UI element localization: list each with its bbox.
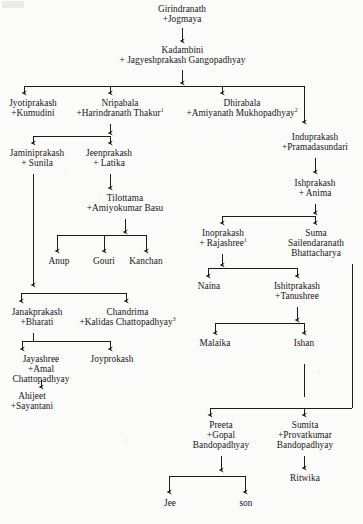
person-node-tilottama: Tilottama+Amiyokumar Basu [78, 193, 172, 213]
person-node-line: + Rajashree1 [190, 238, 256, 248]
person-node-line: +Tanushree [263, 291, 331, 301]
person-node-line: Bandopadhyay [185, 440, 257, 450]
person-node-line: Preeta [185, 420, 257, 430]
person-node-malaika: Malaika [196, 338, 234, 348]
person-node-line: Sumita [266, 420, 344, 430]
person-node-gouri: Gouri [89, 256, 119, 266]
person-node-line: Girindranath [137, 4, 227, 14]
person-node-line: Induprakash [272, 132, 358, 142]
footnote-marker: 2 [295, 107, 298, 113]
person-node-line: Jyotiprakash [1, 98, 65, 108]
person-node-line: +Kumudini [1, 108, 65, 118]
person-node-line: Jayashree [2, 354, 80, 364]
person-node-line: Janakprakash [1, 307, 73, 317]
person-node-line: +Bharati [1, 317, 73, 327]
person-node-line: +Kalidas Chattopadhyay3 [70, 317, 185, 327]
person-node-suma: SumaSailendaranathBhattacharya [280, 228, 352, 258]
person-node-jee: Jee [159, 498, 181, 508]
person-node-line: Suma [280, 228, 352, 238]
person-node-line: Nripabala [65, 98, 175, 108]
person-node-line: Ishitprakash [263, 281, 331, 291]
person-node-sumita: Sumita+ProvatkumarBandopadhyay [266, 420, 344, 450]
person-node-kadambini: Kadambini+ Jagyeshprakash Gangopadhyay [100, 45, 265, 65]
person-node-line: Tilottama [78, 193, 172, 203]
person-node-chandrima: Chandrima+Kalidas Chattopadhyay3 [70, 307, 185, 327]
person-node-line: Malaika [196, 338, 234, 348]
person-node-ishitprakash: Ishitprakash+Tanushree [263, 281, 331, 301]
person-node-line: +Amiyokumar Basu [78, 203, 172, 213]
footnote-marker: 3 [173, 316, 176, 322]
person-node-line: + Latika [76, 158, 142, 168]
person-node-line: Kanchan [125, 256, 167, 266]
person-node-line: Chattopadhyay [2, 374, 80, 384]
family-tree-diagram: Girindranath+JogmayaKadambini+ Jagyeshpr… [0, 0, 363, 524]
person-node-ahijeet: Ahijeet+Sayantani [4, 391, 60, 411]
person-node-line: +Amal [2, 364, 80, 374]
person-node-naina: Naina [192, 281, 226, 291]
person-node-line: + Jagyeshprakash Gangopadhyay [100, 55, 265, 65]
person-node-janakprakash: Janakprakash+Bharati [1, 307, 73, 327]
person-node-line: Jeenprakash [76, 148, 142, 158]
person-node-line: +Sayantani [4, 401, 60, 411]
person-node-line: +Harindranath Thakur1 [65, 108, 175, 118]
footnote-marker: 1 [161, 107, 164, 113]
person-node-line: +Pramadasundari [272, 142, 358, 152]
person-node-line: + Anima [276, 188, 354, 198]
footnote-marker: 1 [244, 237, 247, 243]
person-node-line: Dhirabala [176, 98, 308, 108]
person-node-line: Jaminiprakash [0, 148, 74, 158]
person-node-induprakash: Induprakash+Pramadasundari [272, 132, 358, 152]
person-node-jayashree: Jayashree+AmalChattopadhyay [2, 354, 80, 384]
person-node-line: Ritwika [285, 473, 325, 483]
person-node-nripabala: Nripabala+Harindranath Thakur1 [65, 98, 175, 118]
person-node-line: Bhattacharya [280, 248, 352, 258]
person-node-line: Kadambini [100, 45, 265, 55]
person-node-line: +Jogmaya [137, 14, 227, 24]
person-node-line: Jee [159, 498, 181, 508]
person-node-line: Naina [192, 281, 226, 291]
person-node-joyprokash: Joyprokash [84, 354, 140, 364]
person-node-ishprakash: Ishprakash+ Anima [276, 178, 354, 198]
person-node-line: +Provatkumar [266, 430, 344, 440]
person-node-ritwika: Ritwika [285, 473, 325, 483]
person-node-line: +Amiyanath Mukhopadhyay2 [176, 108, 308, 118]
person-node-son: son [234, 498, 258, 508]
person-node-line: Anup [44, 256, 74, 266]
person-node-dhirabala: Dhirabala+Amiyanath Mukhopadhyay2 [176, 98, 308, 118]
person-node-line: Chandrima [70, 307, 185, 317]
person-node-line: Ahijeet [4, 391, 60, 401]
person-node-line: +Gopal [185, 430, 257, 440]
person-node-line: Bandopadhyay [266, 440, 344, 450]
person-node-anup: Anup [44, 256, 74, 266]
person-node-line: + Sunila [0, 158, 74, 168]
person-node-preeta: Preeta+GopalBandopadhyay [185, 420, 257, 450]
person-node-line: Ishprakash [276, 178, 354, 188]
person-node-ishan: Ishan [288, 338, 320, 348]
person-node-jaminiprakash: Jaminiprakash+ Sunila [0, 148, 74, 168]
person-node-jyotiprakash: Jyotiprakash+Kumudini [1, 98, 65, 118]
person-node-kanchan: Kanchan [125, 256, 167, 266]
person-node-line: Joyprokash [84, 354, 140, 364]
person-node-line: Ishan [288, 338, 320, 348]
person-node-jeenprakash: Jeenprakash+ Latika [76, 148, 142, 168]
person-node-line: son [234, 498, 258, 508]
person-node-girindranath: Girindranath+Jogmaya [137, 4, 227, 24]
person-node-line: Sailendaranath [280, 238, 352, 248]
person-node-line: Gouri [89, 256, 119, 266]
person-node-inoprakash: Inoprakash+ Rajashree1 [190, 228, 256, 248]
